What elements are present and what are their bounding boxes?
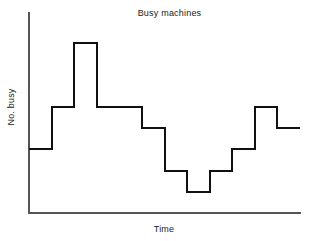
chart-figure: Busy machines No. busy Time	[0, 0, 311, 241]
y-axis-label: No. busy	[6, 77, 16, 137]
axes-group	[28, 12, 301, 213]
step-line-group	[29, 43, 300, 192]
chart-title: Busy machines	[0, 8, 311, 18]
x-axis-label: Time	[28, 224, 300, 234]
step-chart-plot	[0, 0, 311, 241]
step-line-series	[29, 43, 300, 192]
